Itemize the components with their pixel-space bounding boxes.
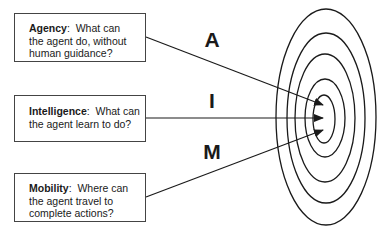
intelligence-text-line1: What can (96, 105, 140, 117)
intelligence-box: Intelligence: What can the agent learn t… (14, 95, 146, 142)
letter-i: I (197, 89, 227, 113)
mobility-text-line3: complete actions? (29, 207, 145, 220)
agency-box: Agency: What can the agent do, without h… (14, 13, 146, 62)
agency-text-line2: the agent do, without (29, 35, 145, 48)
mobility-text-line2: the agent travel to (29, 195, 145, 208)
target-ring-5 (276, 9, 376, 225)
intelligence-term: Intelligence (29, 105, 87, 117)
letter-a: A (197, 28, 227, 52)
agency-text-line3: human guidance? (29, 47, 145, 60)
agency-text-line1: What can (76, 22, 120, 34)
mobility-box: Mobility: Where can the agent travel to … (14, 173, 146, 222)
mobility-term: Mobility (29, 182, 69, 194)
agency-arrow (146, 37, 323, 105)
mobility-text-line1: Where can (77, 182, 128, 194)
mobility-arrow (146, 130, 323, 197)
target-rings (276, 9, 376, 225)
intelligence-text-line2: the agent learn to do? (29, 118, 145, 131)
letter-m: M (197, 140, 227, 164)
agency-term: Agency (29, 22, 67, 34)
